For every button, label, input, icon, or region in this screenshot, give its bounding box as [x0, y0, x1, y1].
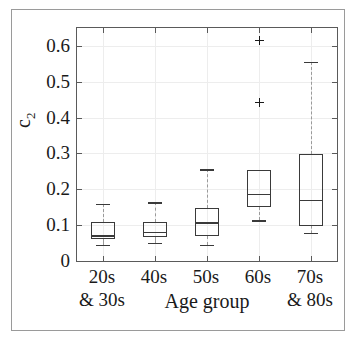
- whisker-cap-lower: [304, 233, 319, 234]
- y-axis-tick-mark: [332, 225, 337, 226]
- whisker-cap-lower: [148, 243, 163, 244]
- y-axis-tick-mark: [332, 261, 337, 262]
- whisker-upper: [155, 202, 156, 221]
- whisker-upper: [103, 204, 104, 222]
- x-axis-tick-mark: [103, 28, 104, 33]
- y-axis-tick-mark: [77, 189, 82, 190]
- box-iqr: [143, 222, 167, 237]
- box-iqr: [247, 170, 271, 206]
- y-axis-tick-label: 0.5: [0, 71, 70, 90]
- whisker-cap-upper: [304, 62, 319, 63]
- x-axis-tick-mark: [311, 256, 312, 261]
- boxplot-chart: c2 00.10.20.30.40.50.6 20s& 30s40s50s60s…: [0, 0, 360, 346]
- median-line: [91, 235, 115, 236]
- y-axis-tick-mark: [77, 82, 82, 83]
- whisker-lower: [259, 207, 260, 221]
- x-axis-tick-mark: [207, 28, 208, 33]
- whisker-cap-upper: [148, 202, 163, 203]
- y-axis-tick-mark: [77, 153, 82, 154]
- box-iqr: [299, 154, 323, 225]
- x-axis-tick-mark: [207, 256, 208, 261]
- y-axis-tick-label: 0.2: [0, 179, 70, 198]
- median-line: [143, 232, 167, 233]
- y-axis-tick-mark: [332, 153, 337, 154]
- x-axis-tick-mark: [155, 256, 156, 261]
- median-line: [195, 222, 219, 223]
- outlier-plus-icon: [255, 98, 264, 107]
- x-axis-tick-label-line1: 60s: [245, 266, 271, 287]
- y-axis-tick-label: 0.6: [0, 35, 70, 54]
- y-axis-tick-label: 0.4: [0, 107, 70, 126]
- median-line: [247, 194, 271, 195]
- y-axis-tick-mark: [332, 82, 337, 83]
- plot-area: [76, 27, 338, 262]
- x-axis-tick-label-line1: 20s: [89, 266, 115, 287]
- x-axis-tick-label-line1: 40s: [141, 266, 167, 287]
- x-axis-tick-label-line1: 50s: [193, 266, 219, 287]
- y-axis-tick-mark: [332, 46, 337, 47]
- x-axis-tick-mark: [155, 28, 156, 33]
- whisker-cap-upper: [200, 169, 215, 170]
- whisker-upper: [207, 169, 208, 208]
- y-axis-tick-label: 0.1: [0, 215, 70, 234]
- y-axis-tick-label: 0.3: [0, 143, 70, 162]
- y-axis-tick-mark: [332, 118, 337, 119]
- y-axis-tick-mark: [77, 118, 82, 119]
- x-axis-tick-mark: [103, 256, 104, 261]
- y-axis-tick-mark: [77, 225, 82, 226]
- x-axis-title: Age group: [76, 290, 338, 313]
- x-axis-tick-mark: [311, 28, 312, 33]
- gridline-vertical: [259, 28, 260, 261]
- outlier-plus-icon: [255, 36, 264, 45]
- y-axis-tick-mark: [77, 46, 82, 47]
- whisker-upper: [311, 62, 312, 154]
- whisker-cap-lower: [96, 245, 111, 246]
- x-axis-tick-mark: [259, 28, 260, 33]
- whisker-cap-lower: [200, 245, 215, 246]
- y-axis-tick-mark: [77, 261, 82, 262]
- y-axis-tick-labels: 00.10.20.30.40.50.6: [0, 27, 70, 262]
- x-axis-tick-label-line1: 70s: [297, 266, 323, 287]
- y-axis-tick-mark: [332, 189, 337, 190]
- whisker-cap-lower: [252, 220, 267, 221]
- y-axis-tick-label: 0: [0, 251, 70, 270]
- whisker-lower: [311, 226, 312, 233]
- median-line: [299, 200, 323, 201]
- x-axis-tick-mark: [259, 256, 260, 261]
- whisker-lower: [207, 236, 208, 245]
- whisker-cap-upper: [96, 204, 111, 205]
